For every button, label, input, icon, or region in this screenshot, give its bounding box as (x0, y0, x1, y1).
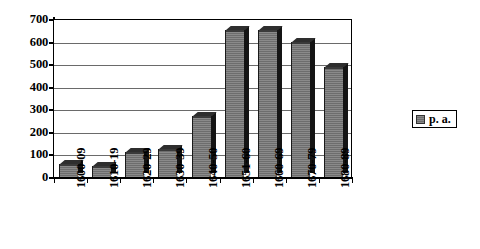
x-tick-label-1620-29: 1620-29 (140, 148, 155, 188)
y-tick-label-500: 500 (2, 57, 48, 72)
legend-label: p. a. (429, 113, 451, 125)
y-tick-label-700: 700 (2, 12, 48, 27)
x-tick-label-1600-09: 1600-09 (74, 148, 89, 188)
x-tick-label-1640-50: 1640-50 (206, 148, 221, 188)
bar-top-face (226, 30, 244, 32)
y-tick-label-100: 100 (2, 147, 48, 162)
y-tick-label-0: 0 (2, 170, 48, 185)
y-tick-label-200: 200 (2, 125, 48, 140)
bar-chart-figure: 0100200300400500600700 1600-091610-19162… (0, 0, 480, 249)
x-tick-label-1680-89: 1680-89 (338, 148, 353, 188)
y-tick-label-600: 600 (2, 35, 48, 50)
x-tick-label-1610-19: 1610-19 (107, 148, 122, 188)
bar-top-face (292, 42, 310, 44)
legend-color-swatch (416, 115, 425, 124)
y-tick-label-300: 300 (2, 102, 48, 117)
bar-top-bevel (193, 112, 217, 116)
bar-top-bevel (259, 26, 283, 30)
bar-top-face (259, 30, 277, 32)
chart-legend: p. a. (412, 110, 457, 128)
x-tick-label-1651-60: 1651-60 (239, 148, 254, 188)
x-tick-label-1630-39: 1630-39 (173, 148, 188, 188)
y-tick-label-400: 400 (2, 80, 48, 95)
x-tick-label-1660-69: 1660-69 (272, 148, 287, 188)
x-tick-label-1670-79: 1670-79 (305, 148, 320, 188)
x-tick-mark-0 (54, 177, 55, 183)
bar-top-face (325, 67, 343, 69)
bar-top-bevel (226, 26, 250, 30)
